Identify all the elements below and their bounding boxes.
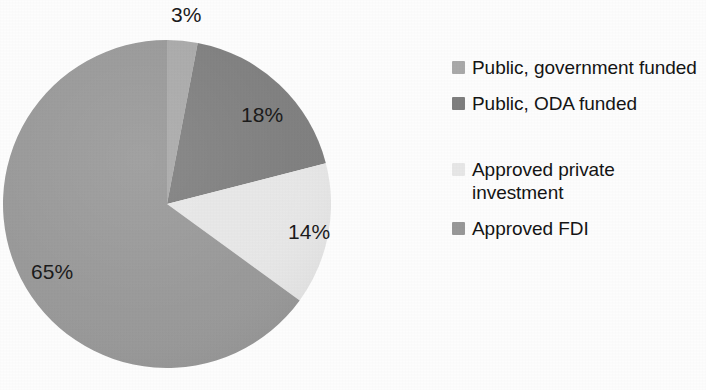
legend-item-label: Public, government funded — [472, 56, 697, 79]
chart-legend: Public, government funded Public, ODA fu… — [452, 56, 702, 240]
pie-shading-overlay — [3, 40, 331, 368]
legend-item-approved-private-investment[interactable]: Approved private investment — [452, 158, 702, 204]
legend-item-label: Approved FDI — [472, 217, 589, 240]
pie-data-label-18-percent: 18% — [241, 104, 283, 125]
legend-swatch-icon — [452, 222, 465, 235]
legend-swatch-icon — [452, 61, 465, 74]
pie-data-label-65-percent: 65% — [31, 261, 73, 282]
legend-item-approved-fdi[interactable]: Approved FDI — [452, 217, 702, 240]
legend-item-label: Approved private investment — [472, 158, 700, 204]
legend-swatch-icon — [452, 163, 465, 176]
legend-item-label: Public, ODA funded — [472, 92, 637, 115]
pie-data-label-3-percent: 3% — [171, 4, 202, 25]
pie-chart-plot-area — [3, 40, 331, 368]
pie-data-label-14-percent: 14% — [288, 221, 330, 242]
pie-chart-svg — [3, 40, 331, 368]
legend-item-public-government-funded[interactable]: Public, government funded — [452, 56, 702, 79]
pie-chart-figure: 3% 18% 14% 65% Public, government funded… — [0, 0, 706, 390]
legend-swatch-icon — [452, 97, 465, 110]
legend-item-public-oda-funded[interactable]: Public, ODA funded — [452, 92, 702, 115]
